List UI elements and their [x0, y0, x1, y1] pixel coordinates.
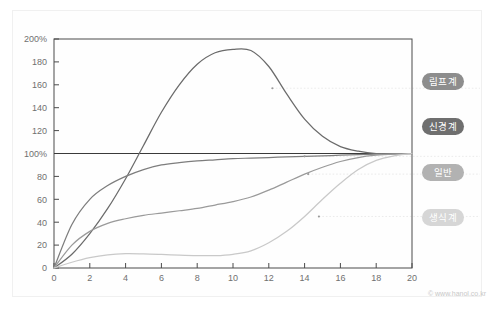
chart-figure: 020406080100%120140160180200%02468101214…: [0, 0, 494, 317]
y-tick-label: 20: [37, 240, 47, 250]
x-tick-label: 12: [264, 273, 274, 283]
y-tick-label: 120: [32, 126, 47, 136]
y-tick-label: 140: [32, 103, 47, 113]
series-marker: [318, 215, 320, 217]
legend-item-3[interactable]: 생식계: [422, 209, 464, 226]
series-line: [54, 154, 412, 269]
y-tick-label: 40: [37, 218, 47, 228]
y-tick-label: 180: [32, 57, 47, 67]
legend-item-2[interactable]: 일반: [422, 164, 464, 181]
series-lines: [54, 49, 412, 268]
x-tick-label: 2: [87, 273, 92, 283]
series-marker: [307, 173, 309, 175]
x-tick-label: 8: [195, 273, 200, 283]
series-marker: [271, 87, 273, 89]
watermark: © www.hanol.co.kr: [428, 290, 486, 297]
leader-lines: [272, 88, 480, 216]
x-tick-label: 6: [159, 273, 164, 283]
axis-tick-labels: 020406080100%120140160180200%02468101214…: [24, 34, 417, 283]
x-tick-label: 18: [371, 273, 381, 283]
x-tick-label: 14: [300, 273, 310, 283]
x-tick-label: 16: [335, 273, 345, 283]
x-tick-label: 10: [228, 273, 238, 283]
y-tick-label: 160: [32, 80, 47, 90]
series-marker: [304, 155, 306, 157]
y-tick-label: 60: [37, 195, 47, 205]
y-tick-label: 80: [37, 172, 47, 182]
legend-item-1[interactable]: 신경계: [422, 118, 464, 135]
x-tick-label: 4: [123, 273, 128, 283]
chart-plot: 020406080100%120140160180200%02468101214…: [0, 0, 494, 317]
y-tick-label: 0: [42, 263, 47, 273]
series-line: [54, 154, 412, 269]
series-line: [54, 154, 412, 269]
legend-item-0[interactable]: 림프계: [422, 73, 464, 90]
x-tick-label: 20: [407, 273, 417, 283]
y-tick-label: 100%: [24, 149, 47, 159]
y-tick-label: 200%: [24, 34, 47, 44]
x-tick-label: 0: [51, 273, 56, 283]
